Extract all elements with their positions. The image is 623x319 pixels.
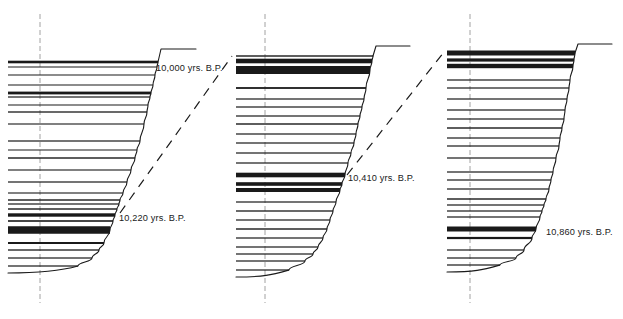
- panel-1-lamina-11: [8, 150, 137, 151]
- panel-3-lamina-12: [447, 157, 556, 158]
- panel-3-lamina-3: [447, 64, 573, 68]
- panel-3-lamina-4: [447, 79, 570, 80]
- date-label-2: 10,220 yrs. B.P.: [119, 213, 186, 223]
- panel-1-lamina-17: [8, 203, 119, 204]
- panel-2-lamina-20: [236, 237, 323, 238]
- panel-1-lamina-9: [8, 123, 144, 124]
- panel-3-lamina-22: [447, 249, 524, 250]
- panel-1-lamina-10: [8, 140, 140, 141]
- panel-3-lamina-19: [447, 216, 540, 217]
- panel-2-lamina-21: [236, 246, 318, 247]
- panel-2-lamina-6: [236, 106, 362, 107]
- panel-2-lamina-24: [236, 269, 289, 270]
- panel-3-lamina-20: [447, 227, 536, 232]
- panel-2-lamina-13: [236, 173, 345, 178]
- panel-3-lamina-11: [447, 145, 559, 146]
- panel-1-lamina-6: [8, 96, 150, 97]
- panel-1-lamina-2: [8, 67, 157, 68]
- panel-1-lamina-16: [8, 199, 120, 200]
- panel-2-lamina-2: [236, 59, 372, 64]
- panel-2-lamina-14: [236, 182, 342, 186]
- panel-1-lamina-13: [8, 169, 131, 170]
- panel-1-lamina-23: [8, 249, 99, 250]
- panel-1-lamina-3: [8, 75, 155, 76]
- panel-2-lamina-9: [236, 133, 356, 134]
- panel-2-lamina-10: [236, 142, 354, 143]
- panel-2-lamina-16: [236, 201, 336, 202]
- panel-1-lamina-15: [8, 192, 123, 193]
- panel-1-lamina-8: [8, 111, 147, 112]
- figure-root: 10,000 yrs. B.P.10,220 yrs. B.P.10,410 y…: [0, 0, 623, 319]
- panel-2-lamina-15: [236, 188, 340, 192]
- panel-1-lamina-21: [8, 226, 110, 234]
- panel-1-lamina-4: [8, 85, 153, 86]
- core-correlation-diagram: 10,000 yrs. B.P.10,220 yrs. B.P.10,410 y…: [0, 0, 623, 319]
- panel-2-lamina-17: [236, 210, 333, 211]
- panel-2-lamina-18: [236, 219, 330, 220]
- panel-1-lamina-19: [8, 213, 115, 216]
- panel-1-lamina-24: [8, 257, 92, 258]
- panel-3-lamina-7: [447, 109, 565, 110]
- date-label-3: 10,410 yrs. B.P.: [348, 173, 415, 183]
- panel-3-lamina-2: [447, 58, 574, 61]
- panel-3-lamina-21: [447, 237, 532, 239]
- figure-background: [0, 0, 623, 319]
- panel-3-lamina-14: [447, 179, 551, 180]
- panel-3-lamina-13: [447, 171, 553, 172]
- panel-2-lamina-19: [236, 228, 327, 229]
- panel-1-lamina-20: [8, 220, 113, 222]
- panel-1-lamina-25: [8, 265, 78, 266]
- panel-3-lamina-5: [447, 87, 569, 88]
- panel-2-lamina-11: [236, 152, 351, 153]
- panel-1-lamina-18: [8, 208, 117, 209]
- panel-1-lamina-14: [8, 181, 127, 182]
- panel-2-lamina-8: [236, 123, 358, 124]
- panel-1-lamina-22: [8, 242, 104, 244]
- panel-2-lamina-3: [236, 66, 370, 74]
- panel-3-lamina-9: [447, 127, 562, 128]
- panel-2-lamina-12: [236, 162, 348, 163]
- date-label-4: 10,860 yrs. B.P.: [546, 227, 613, 237]
- panel-1-lamina-12: [8, 157, 135, 158]
- panel-2-lamina-1: [236, 55, 373, 56]
- panel-3-lamina-10: [447, 137, 560, 138]
- panel-2-lamina-23: [236, 260, 305, 261]
- panel-2-lamina-4: [236, 87, 366, 89]
- panel-3-lamina-8: [447, 118, 564, 119]
- panel-3-lamina-1: [447, 51, 575, 56]
- panel-3-lamina-15: [447, 188, 549, 189]
- panel-3-lamina-17: [447, 204, 544, 205]
- panel-1-lamina-5: [8, 92, 151, 95]
- panel-1-lamina-1: [8, 61, 158, 64]
- panel-1-lamina-7: [8, 105, 148, 106]
- panel-2-lamina-5: [236, 98, 364, 99]
- panel-3-lamina-24: [447, 264, 500, 265]
- panel-3-lamina-16: [447, 198, 546, 199]
- panel-3-lamina-18: [447, 210, 542, 211]
- date-label-1: 10,000 yrs. B.P.: [156, 63, 223, 73]
- panel-2-lamina-7: [236, 115, 360, 116]
- panel-2-lamina-22: [236, 253, 313, 254]
- panel-3-lamina-23: [447, 257, 516, 258]
- panel-3-lamina-6: [447, 98, 567, 99]
